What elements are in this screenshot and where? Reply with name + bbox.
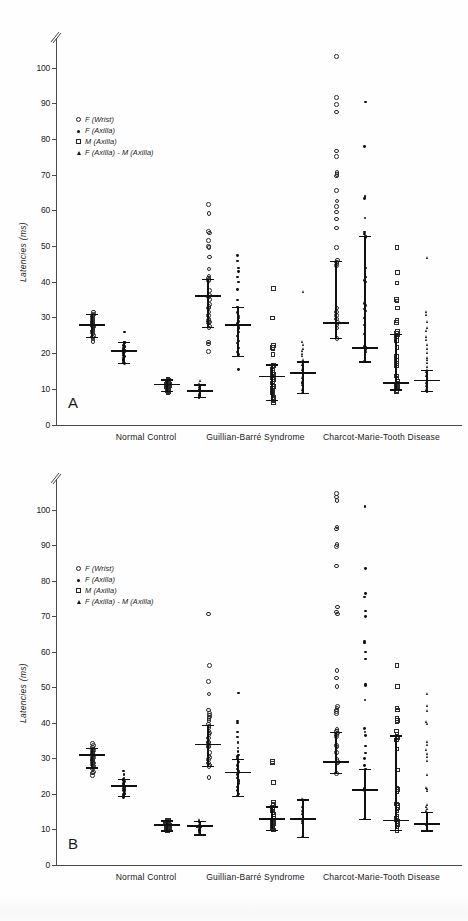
- data-point: [334, 149, 339, 154]
- data-point: [426, 759, 428, 762]
- legend-label: M (Axilla): [85, 586, 117, 595]
- data-point: [425, 748, 427, 751]
- y-axis-tick-label: 80: [24, 576, 50, 586]
- y-axis-tick-label: 0: [24, 860, 50, 870]
- legend-item: F (Axilla) - M (Axilla): [74, 596, 154, 607]
- data-point: [425, 338, 427, 341]
- open-circle-icon: [76, 566, 81, 571]
- sd-bar: [335, 261, 336, 338]
- sd-cap-bottom: [194, 397, 206, 398]
- y-axis-tick: [52, 652, 56, 653]
- data-point: [206, 229, 211, 234]
- sd-bar: [395, 735, 396, 829]
- sd-cap-top: [390, 735, 402, 736]
- sd-cap-bottom: [297, 393, 309, 394]
- legend-item: M (Axilla): [74, 585, 154, 596]
- sd-bar: [302, 361, 303, 392]
- y-axis-tick-label: 100: [24, 505, 50, 515]
- legend: F (Wrist)F (Axilla)M (Axilla)F (Axilla) …: [74, 114, 154, 158]
- y-axis-tick-label: 10: [24, 384, 50, 394]
- axis-break-icon: [50, 30, 64, 46]
- y-axis-tick: [52, 829, 56, 830]
- mean-bar: [79, 754, 105, 756]
- data-point: [302, 343, 304, 346]
- sd-cap-bottom: [266, 400, 278, 401]
- data-point: [425, 313, 427, 316]
- data-point: [335, 172, 340, 177]
- sd-bar: [199, 821, 200, 835]
- sd-cap-top: [232, 759, 244, 760]
- data-point: [426, 256, 428, 259]
- sd-bar: [271, 364, 272, 400]
- data-point: [334, 676, 339, 681]
- legend-label: F (Wrist): [85, 564, 114, 573]
- data-point: [334, 217, 339, 222]
- data-point: [334, 245, 339, 250]
- y-axis-tick: [52, 317, 56, 318]
- mean-bar: [111, 350, 137, 352]
- mean-bar: [111, 785, 137, 787]
- legend-marker-open-circle: [74, 115, 83, 124]
- data-point: [394, 297, 399, 302]
- legend-item: F (Axilla): [74, 574, 154, 585]
- data-point: [426, 709, 428, 712]
- y-axis-line: [56, 479, 57, 865]
- filled-triangle-icon: [77, 151, 81, 155]
- data-point: [364, 699, 367, 702]
- y-axis-tick: [52, 68, 56, 69]
- y-axis-tick: [52, 175, 56, 176]
- data-point: [206, 349, 211, 354]
- sd-cap-top: [161, 820, 173, 821]
- filled-circle-icon: [77, 579, 80, 582]
- data-point: [302, 290, 304, 293]
- sd-cap-top: [202, 279, 214, 280]
- data-point: [363, 596, 366, 599]
- legend-marker-filled-circle: [74, 126, 83, 135]
- data-point: [335, 612, 340, 617]
- data-point: [395, 684, 400, 689]
- sd-bar: [123, 779, 124, 796]
- mean-bar: [195, 744, 221, 746]
- legend-label: F (Axilla): [85, 575, 115, 584]
- sd-cap-bottom: [86, 337, 98, 338]
- data-point: [334, 204, 339, 209]
- legend-label: F (Axilla) - M (Axilla): [85, 148, 154, 157]
- data-point: [395, 270, 400, 275]
- legend-marker-open-circle: [74, 564, 83, 573]
- data-point: [334, 110, 339, 115]
- sd-cap-bottom: [232, 356, 244, 357]
- sd-cap-top: [86, 314, 98, 315]
- data-point: [237, 747, 240, 750]
- y-axis-tick: [52, 794, 56, 795]
- mean-bar: [79, 324, 105, 326]
- y-axis-tick: [52, 103, 56, 104]
- group-label: Charcot-Marie-Tooth Disease: [312, 432, 452, 442]
- panel-letter: B: [68, 835, 78, 852]
- data-point: [394, 320, 399, 325]
- mean-bar: [323, 761, 349, 763]
- y-axis-tick-label: 70: [24, 611, 50, 621]
- data-point: [236, 731, 239, 734]
- data-point: [207, 267, 212, 272]
- panel-b: 0102030405060708090100Latencies (ms)BF (…: [0, 455, 468, 921]
- data-point: [206, 679, 211, 684]
- sd-cap-bottom: [86, 767, 98, 768]
- data-point: [364, 592, 367, 595]
- y-axis-tick-label: 20: [24, 348, 50, 358]
- sd-cap-top: [202, 725, 214, 726]
- sd-cap-bottom: [297, 837, 309, 838]
- data-point: [395, 708, 400, 713]
- mean-bar: [195, 295, 221, 297]
- data-point: [236, 276, 239, 279]
- sd-cap-top: [421, 370, 433, 371]
- data-point: [206, 342, 211, 347]
- sd-cap-bottom: [421, 391, 433, 392]
- sd-cap-top: [297, 799, 309, 800]
- group-label: Charcot-Marie-Tooth Disease: [312, 872, 452, 882]
- y-axis-tick-label: 30: [24, 312, 50, 322]
- data-point: [364, 731, 367, 734]
- data-point: [364, 745, 367, 748]
- sd-cap-bottom: [421, 830, 433, 831]
- sd-cap-top: [330, 732, 342, 733]
- y-axis-line: [56, 38, 57, 425]
